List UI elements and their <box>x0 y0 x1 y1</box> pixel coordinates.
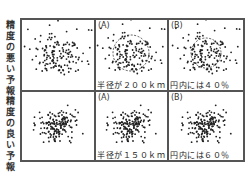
panel-poor-base <box>21 19 95 91</box>
panel-caption: 円内には６０％ <box>170 149 230 160</box>
panel-caption: 半径が２００ｋｍ <box>97 79 165 90</box>
row-label-char: 予 <box>6 151 15 162</box>
panel-tag: (B) <box>171 93 183 102</box>
row-label-poor-accuracy: 精 度 の 悪 い 予 報 <box>2 20 18 97</box>
scatter-dots <box>22 92 94 160</box>
panel-poor-b: (B) 円内には４０％ <box>168 19 244 91</box>
panel-caption: 半径が１５０ｋｍ <box>97 149 165 160</box>
row-label-char: 悪 <box>6 53 15 64</box>
row-label-char: 予 <box>6 75 15 86</box>
row-label-good-accuracy: 精 度 の 良 い 予 報 <box>2 96 18 173</box>
row-label-char: 度 <box>6 31 15 42</box>
row-label-char: の <box>6 42 15 53</box>
row-label-char: 報 <box>6 162 15 173</box>
scatter-dots <box>22 20 94 90</box>
row-label-char: の <box>6 118 15 129</box>
row-label-char: 度 <box>6 107 15 118</box>
panel-poor-a: (A) 半径が２００ｋｍ <box>95 19 168 91</box>
row-label-char: い <box>6 140 15 151</box>
panel-good-base <box>21 91 95 161</box>
panel-tag: (A) <box>98 93 110 102</box>
forecast-grid: (A) 半径が２００ｋｍ (B) 円内には４０％ (A) 半径が１５０ｋｍ (B… <box>20 18 245 162</box>
panel-good-a: (A) 半径が１５０ｋｍ <box>95 91 168 161</box>
row-label-char: い <box>6 64 15 75</box>
panel-tag: (A) <box>98 21 110 30</box>
row-label-char: 精 <box>6 96 15 107</box>
panel-good-b: (B) 円内には６０％ <box>168 91 244 161</box>
panel-caption: 円内には４０％ <box>170 79 230 90</box>
row-label-char: 良 <box>6 129 15 140</box>
row-label-char: 精 <box>6 20 15 31</box>
panel-tag: (B) <box>171 21 183 30</box>
